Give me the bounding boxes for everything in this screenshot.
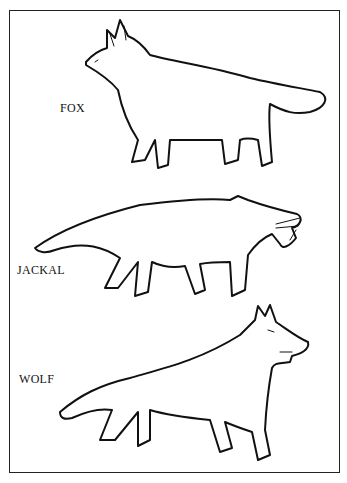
label-fox: FOX [60, 101, 85, 116]
wolf-drawing [0, 0, 347, 483]
label-wolf: WOLF [19, 372, 54, 387]
label-jackal: JACKAL [17, 263, 65, 278]
